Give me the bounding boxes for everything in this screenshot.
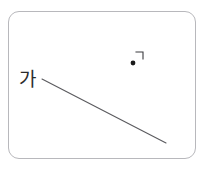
right-angle-icon [136, 52, 143, 59]
label-ga: 가 [19, 69, 36, 90]
point-dot [131, 61, 136, 66]
line-segment-main [42, 79, 166, 143]
diagram-stage: 가 [0, 0, 211, 171]
